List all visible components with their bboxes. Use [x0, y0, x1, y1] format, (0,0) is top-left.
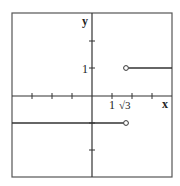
- x-tick-label-sqrt3: √3: [119, 99, 131, 111]
- y-axis-label: y: [82, 14, 88, 28]
- x-tick-label-1: 1: [109, 98, 115, 112]
- piecewise-function-graph: y x 1 1 √3: [0, 0, 180, 186]
- x-axis-label: x: [162, 97, 168, 111]
- y-tick-label-1: 1: [82, 62, 88, 76]
- open-circle-upper: [124, 66, 129, 71]
- open-circle-lower: [124, 121, 129, 126]
